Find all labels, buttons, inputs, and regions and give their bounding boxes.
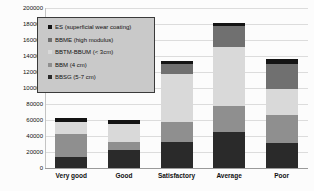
legend-item: BBTM-BBUM (< 3cm): [48, 46, 154, 59]
legend-marker-icon: [48, 25, 52, 29]
bar-segment: [108, 150, 140, 168]
legend-item: ES (superficial wear coating): [48, 21, 154, 34]
bar-segment: [55, 134, 87, 157]
bar-segment: [55, 118, 87, 121]
bar-segment: [161, 122, 193, 141]
bar-segment: [266, 64, 298, 89]
bar-segment: [213, 23, 245, 26]
bar-segment: [161, 64, 193, 74]
y-axis-tick-label: 200000: [21, 5, 43, 11]
y-axis-tick-label: 40000: [21, 133, 43, 139]
legend-item: BBSG (5-7 cm): [48, 71, 154, 84]
legend-marker-icon: [48, 38, 52, 42]
bar-segment: [55, 122, 87, 134]
bar-segment: [213, 47, 245, 105]
bar-segment: [266, 59, 298, 64]
bar-segment: [266, 115, 298, 143]
y-axis-tick-label: 80000: [21, 101, 43, 107]
legend-marker-icon: [48, 75, 52, 79]
legend-label: BBME (high modulus): [55, 37, 113, 43]
bar-segment: [108, 120, 140, 124]
legend-marker-icon: [48, 63, 52, 67]
legend-box: ES (superficial wear coating)BBME (high …: [37, 17, 155, 93]
y-axis-tick-label: 20000: [21, 149, 43, 155]
bar-segment: [161, 61, 193, 64]
gridline: [45, 8, 308, 9]
legend-item: BBM (4 cm): [48, 59, 154, 72]
legend-label: BBM (4 cm): [55, 62, 87, 68]
category-label: Very good: [56, 172, 87, 179]
y-axis-tick-label: 60000: [21, 117, 43, 123]
bar-segment: [213, 26, 245, 47]
bar-segment: [161, 74, 193, 123]
bar-segment: [266, 143, 298, 168]
bar-segment: [55, 157, 87, 168]
y-axis-tick-label: 0: [21, 165, 43, 171]
bar-segment: [108, 142, 140, 151]
category-label: Satisfactory: [158, 172, 195, 179]
stacked-bar-chart: 2000001800001600001400001200001000008000…: [0, 0, 314, 191]
bar-segment: [266, 89, 298, 115]
legend-item: BBME (high modulus): [48, 34, 154, 47]
bar-segment: [108, 124, 140, 142]
legend-marker-icon: [48, 50, 52, 54]
category-label: Good: [115, 172, 132, 179]
bar-segment: [213, 106, 245, 132]
category-label: Average: [216, 172, 241, 179]
bar-segment: [161, 142, 193, 168]
bar-segment: [213, 132, 245, 168]
legend-label: BBSG (5-7 cm): [55, 74, 96, 80]
category-label: Poor: [274, 172, 289, 179]
legend-label: BBTM-BBUM (< 3cm): [55, 49, 113, 55]
legend-label: ES (superficial wear coating): [55, 24, 131, 30]
x-axis-baseline: [45, 168, 308, 169]
